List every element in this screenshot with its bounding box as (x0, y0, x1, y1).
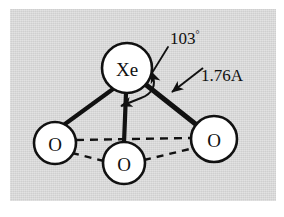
bond-angle-label: 103° (170, 29, 200, 48)
atom-label-o-right: O (207, 130, 221, 151)
guide-line-o-left-o-right (76, 138, 192, 140)
atom-label-o-bottom: O (117, 154, 131, 175)
atom-label-xe: Xe (116, 59, 138, 80)
bond-length-arrow (172, 68, 203, 92)
bond-xe-o-bottom (124, 93, 126, 143)
figure-root: Xe O O O 103° 1.76A (0, 0, 284, 217)
atom-group: Xe O O O (34, 43, 237, 184)
bond-length-indicator-group (172, 68, 203, 92)
atom-label-o-left: O (48, 134, 62, 155)
guide-line-o-left-o-bottom (72, 153, 104, 161)
bond-xe-o-left (65, 89, 113, 124)
bond-length-label: 1.76A (201, 66, 244, 85)
bond-xe-o-right (145, 84, 198, 126)
annotation-text-group: 103° 1.76A (170, 29, 244, 85)
molecule-diagram: Xe O O O 103° 1.76A (0, 0, 284, 217)
guide-line-o-bottom-o-right (144, 148, 194, 160)
bond-angle-value: 103 (170, 29, 196, 48)
bond-angle-leader-line (152, 47, 168, 73)
degree-symbol-icon: ° (196, 29, 200, 40)
